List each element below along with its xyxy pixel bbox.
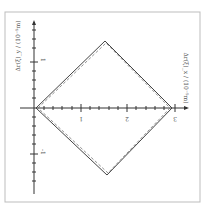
x-tick-label-2: 2 [125, 116, 129, 123]
y-axis-arrow-icon [32, 20, 36, 25]
chart-figure: Δr(ξ)_y / (10⁻⁵m) Δr(ξ)_x / (10⁻⁵m) 1 2 … [0, 0, 204, 210]
x-tick-label-1: 1 [79, 116, 83, 123]
x-axis-label: Δr(ξ)_x / (10⁻⁵m) [182, 53, 190, 104]
x-axis-arrow-icon [184, 106, 189, 110]
y-tick-label-pos: 1 [40, 58, 47, 62]
x-tick-label-3: 3 [173, 116, 177, 123]
y-axis-label: Δr(ξ)_y / (10⁻⁵m) [14, 21, 22, 72]
y-tick-label-neg: -1 [40, 149, 47, 155]
